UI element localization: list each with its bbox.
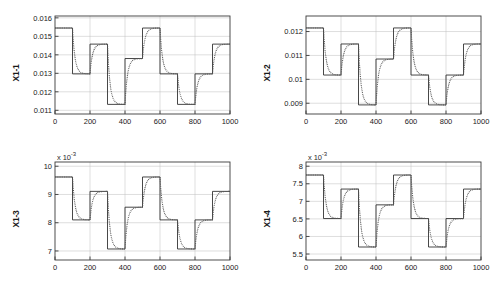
subplot-x1-4: X1-4 x 10-3 5.566.577.580200400600800100… [251, 146, 501, 292]
svg-text:6.5: 6.5 [293, 215, 303, 224]
svg-text:0.013: 0.013 [33, 69, 52, 78]
svg-text:8: 8 [48, 218, 52, 227]
svg-text:0: 0 [304, 263, 308, 272]
svg-text:600: 600 [405, 263, 418, 272]
plot-area-x1-3: 7891002004006008001000 [0, 146, 250, 292]
svg-text:6: 6 [299, 232, 303, 241]
svg-text:200: 200 [84, 117, 97, 126]
svg-text:7: 7 [299, 197, 303, 206]
svg-text:200: 200 [335, 117, 348, 126]
svg-text:800: 800 [189, 263, 202, 272]
svg-text:200: 200 [84, 263, 97, 272]
svg-text:0.014: 0.014 [33, 51, 52, 60]
svg-text:1000: 1000 [222, 117, 239, 126]
svg-text:0: 0 [304, 117, 308, 126]
svg-text:0.012: 0.012 [284, 27, 303, 36]
subplot-x1-3: X1-3 x 10-3 7891002004006008001000 [0, 146, 250, 292]
svg-text:7.5: 7.5 [293, 179, 303, 188]
svg-text:1000: 1000 [473, 263, 490, 272]
svg-text:9: 9 [48, 190, 52, 199]
svg-text:800: 800 [440, 117, 453, 126]
svg-text:0.016: 0.016 [33, 14, 52, 23]
svg-text:400: 400 [370, 117, 383, 126]
svg-text:600: 600 [154, 117, 167, 126]
plot-area-x1-1: 0.0110.0120.0130.0140.0150.0160200400600… [0, 0, 250, 146]
svg-text:10: 10 [44, 162, 52, 171]
svg-text:200: 200 [335, 263, 348, 272]
svg-text:5.5: 5.5 [293, 250, 303, 259]
svg-text:0.011: 0.011 [34, 106, 52, 115]
svg-text:0.01: 0.01 [288, 75, 303, 84]
svg-text:600: 600 [405, 117, 418, 126]
svg-text:0: 0 [53, 263, 57, 272]
svg-text:400: 400 [119, 117, 132, 126]
svg-text:1000: 1000 [222, 263, 239, 272]
plot-area-x1-2: 0.0090.010.0110.01202004006008001000 [251, 0, 501, 146]
plot-area-x1-4: 5.566.577.5802004006008001000 [251, 146, 501, 292]
svg-text:7: 7 [48, 247, 52, 256]
svg-text:0.012: 0.012 [33, 88, 52, 97]
figure-canvas: X1-1 0.0110.0120.0130.0140.0150.01602004… [0, 0, 501, 292]
svg-text:800: 800 [440, 263, 453, 272]
svg-text:0.011: 0.011 [285, 51, 303, 60]
svg-text:0: 0 [53, 117, 57, 126]
svg-text:0.009: 0.009 [284, 99, 303, 108]
svg-text:400: 400 [370, 263, 383, 272]
svg-text:600: 600 [154, 263, 167, 272]
svg-text:0.015: 0.015 [33, 32, 52, 41]
svg-text:800: 800 [189, 117, 202, 126]
svg-text:8: 8 [299, 162, 303, 171]
subplot-x1-2: X1-2 0.0090.010.0110.0120200400600800100… [251, 0, 501, 146]
svg-text:1000: 1000 [473, 117, 490, 126]
svg-text:400: 400 [119, 263, 132, 272]
subplot-x1-1: X1-1 0.0110.0120.0130.0140.0150.01602004… [0, 0, 250, 146]
